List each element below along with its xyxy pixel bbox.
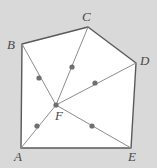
- marker-point-on-fb: [36, 75, 41, 80]
- interior-point-f: [53, 102, 58, 107]
- vertex-label-e: E: [128, 150, 136, 163]
- vertex-label-c: C: [82, 10, 91, 23]
- marker-point-on-fa: [34, 123, 39, 128]
- geometry-figure: A B C D E F: [0, 0, 157, 168]
- vertex-label-a: A: [14, 150, 22, 163]
- vertex-label-d: D: [140, 54, 149, 67]
- marker-point-on-fc: [69, 64, 74, 69]
- pentagon-abcde: [21, 27, 136, 148]
- geometry-canvas: [0, 0, 157, 168]
- marker-point-on-fe: [89, 123, 94, 128]
- marker-point-on-fd: [92, 80, 97, 85]
- vertex-label-b: B: [7, 38, 15, 51]
- vertex-label-f: F: [55, 109, 63, 122]
